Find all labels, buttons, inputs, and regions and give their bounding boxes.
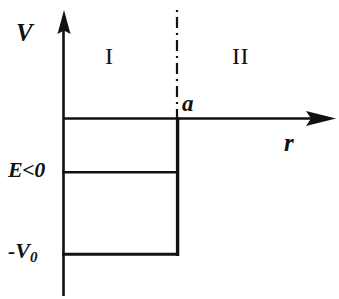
- region-label-i: I: [105, 44, 114, 68]
- v-axis-arrowhead-icon: [58, 10, 71, 34]
- v-axis-label: V: [16, 20, 33, 45]
- well-depth-label-subscript: 0: [30, 249, 38, 265]
- boundary-label-a: a: [182, 92, 194, 115]
- well-depth-label: -V0: [8, 240, 38, 265]
- region-label-ii: II: [232, 44, 249, 68]
- r-axis-label: r: [284, 130, 294, 155]
- well-depth-label-main: -V: [8, 238, 30, 263]
- energy-level-label: E<0: [8, 159, 45, 181]
- potential-well-figure: V r I II a E<0 -V0: [0, 0, 339, 299]
